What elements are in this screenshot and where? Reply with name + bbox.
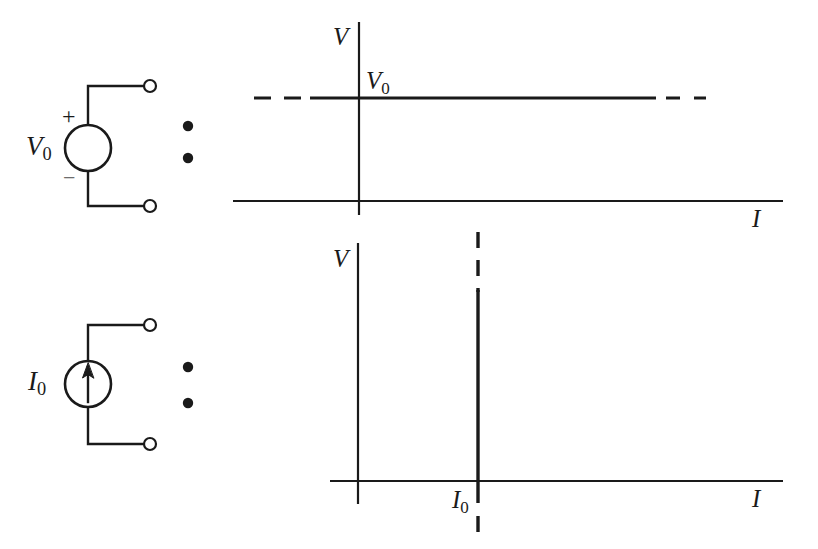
current-source-label-sub: 0 (37, 379, 46, 399)
voltage-source-ellipsis-dots (183, 121, 193, 163)
voltage-source-terminal-bottom (144, 200, 156, 212)
current-source-ellipsis-dots (183, 362, 193, 408)
ellipsis-dot (183, 121, 193, 131)
circuit-voltage-source (65, 80, 156, 212)
bottom-chart-i0-annotation: I0 (452, 487, 469, 512)
chart-current-source-vi (330, 232, 783, 540)
top-chart-v-axis-label: V (333, 24, 348, 49)
top-chart-v0-text: V (366, 67, 381, 94)
bottom-chart-i0-sub: 0 (460, 498, 469, 517)
current-source-label-text: I (28, 366, 37, 396)
circuit-current-source (65, 319, 156, 450)
ellipsis-dot (183, 153, 193, 163)
figure-drawing (0, 0, 818, 549)
current-source-upper-lead (88, 325, 144, 362)
bottom-chart-v-axis-label: V (333, 246, 348, 271)
voltage-source-label-sub: 0 (43, 144, 52, 164)
figure-root: V0 + − I0 V I V0 V I I0 (0, 0, 818, 549)
current-source-terminal-bottom (144, 438, 156, 450)
top-chart-v0-sub: 0 (381, 79, 390, 98)
bottom-chart-i-axis-label: I (752, 486, 760, 511)
current-source-label: I0 (28, 368, 46, 395)
polarity-minus-sign: − (63, 167, 75, 189)
voltage-source-terminal-top (144, 80, 156, 92)
top-chart-v0-annotation: V0 (366, 68, 390, 93)
current-source-terminal-top (144, 319, 156, 331)
ellipsis-dot (183, 398, 193, 408)
top-chart-i-axis-label: I (752, 206, 760, 231)
voltage-source-label-text: V (26, 131, 43, 161)
current-source-lower-lead (88, 406, 144, 444)
voltage-source-lower-lead (88, 170, 144, 206)
voltage-source-label: V0 (26, 133, 52, 160)
polarity-plus-sign: + (62, 104, 76, 128)
chart-voltage-source-vi (233, 22, 783, 215)
voltage-source-upper-lead (88, 86, 144, 126)
ellipsis-dot (183, 362, 193, 372)
